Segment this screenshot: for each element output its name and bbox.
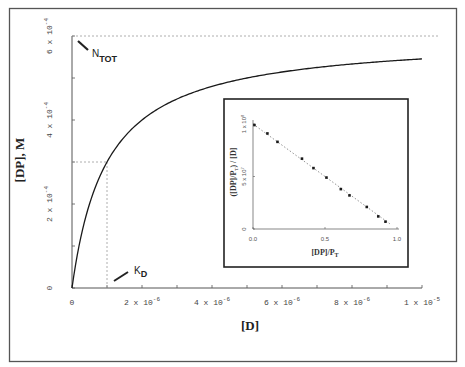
x-tick-label: 6 x 10-6 (264, 296, 300, 307)
x-tick-label: 0 (70, 298, 75, 307)
x-tick-label: 4 x 10-6 (194, 296, 230, 307)
ntot-annotation: NTOT (78, 41, 118, 64)
y-tick-label: 2 x 10-4 (43, 186, 54, 222)
inset-data-point (312, 167, 315, 170)
inset-data-point (325, 176, 328, 179)
inset-x-axis-title: [DP]/PT (311, 248, 338, 258)
ntot-arrow (78, 41, 88, 50)
kd-label: KD (134, 265, 148, 279)
kd-arrow (114, 272, 128, 281)
chart-svg: 02 x 10-64 x 10-66 x 10-68 x 10-61 x 10-… (0, 0, 465, 367)
y-tick-label: 0 (45, 285, 54, 290)
inset-x-tick-label: 1.0 (393, 236, 402, 242)
x-axis-title: [D] (241, 318, 259, 333)
ntot-label: NTOT (92, 48, 118, 64)
kd-annotation: KD (114, 265, 148, 281)
inset-data-point (340, 188, 343, 191)
inset-data-point (377, 215, 380, 218)
inset-x-tick-label: 0.0 (249, 236, 258, 242)
inset-data-point (348, 194, 351, 197)
y-tick-label: 6 x 10-4 (43, 18, 54, 54)
inset-x-tick-label: 0.5 (321, 236, 330, 242)
inset-data-point (384, 220, 387, 223)
x-tick-label: 2 x 10-6 (124, 296, 160, 307)
y-axis-title: [DP], M (12, 138, 27, 183)
inset-data-point (276, 141, 279, 144)
x-tick-label: 1 x 10-5 (404, 296, 440, 307)
x-tick-label: 8 x 10-6 (334, 296, 370, 307)
inset-data-point (365, 206, 368, 209)
inset-y-axis-title: ([DP]/PT) / [D] (229, 147, 239, 196)
y-tick-label: 4 x 10-4 (43, 102, 54, 138)
inset-data-point (301, 157, 304, 160)
inset-data-point (253, 124, 256, 127)
inset-data-point (266, 132, 269, 135)
inset-plot: 0.00.51.005 x 1071 x 108 [DP]/PT ([DP]/P… (224, 99, 408, 267)
chart-figure: 02 x 10-64 x 10-66 x 10-68 x 10-61 x 10-… (0, 0, 465, 367)
